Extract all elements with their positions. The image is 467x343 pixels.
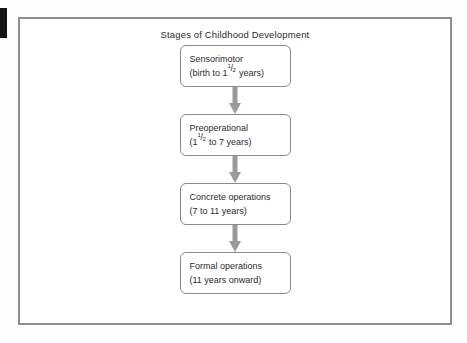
stage-age-range-suffix: years): [237, 68, 265, 78]
arrow-concrete-to-formal-operations: [228, 225, 242, 252]
stage-age-range: (7 to 11 years): [190, 204, 290, 218]
fraction-one-half: 1/2: [228, 67, 237, 76]
page-edge-mark: [0, 8, 7, 38]
arrow-head-down-icon: [229, 172, 241, 183]
figure-title: Stages of Childhood Development: [20, 29, 450, 40]
arrow-sensorimotor-to-preoperational: [228, 87, 242, 114]
arrow-head-down-icon: [229, 103, 241, 114]
stage-age-range: (birth to 11/2 years): [190, 66, 290, 80]
arrow-shaft: [233, 87, 238, 104]
arrow-shaft: [233, 225, 238, 242]
fraction-denominator: 2: [233, 67, 236, 73]
stage-age-range-prefix: (birth to 1: [190, 68, 228, 78]
figure-frame: Stages of Childhood Development Sensorim…: [18, 17, 452, 325]
stage-age-range-suffix: to 7 years): [207, 137, 252, 147]
fraction-denominator: 2: [203, 136, 206, 142]
stage-age-range-prefix: (1: [190, 137, 198, 147]
stage-title: Formal operations: [190, 259, 290, 273]
stage-box-preoperational: Preoperational (11/2 to 7 years): [180, 114, 291, 156]
stage-age-range: (11/2 to 7 years): [190, 135, 290, 149]
stage-box-formal-operations: Formal operations (11 years onward): [180, 252, 291, 294]
stage-title: Sensorimotor: [190, 52, 290, 66]
stage-age-range: (11 years onward): [190, 273, 290, 287]
fraction-one-half: 1/2: [198, 136, 207, 145]
arrow-shaft: [233, 156, 238, 173]
arrow-preoperational-to-concrete-operations: [228, 156, 242, 183]
stage-box-concrete-operations: Concrete operations (7 to 11 years): [180, 183, 291, 225]
stage-title: Concrete operations: [190, 190, 290, 204]
flowchart: Sensorimotor (birth to 11/2 years) Preop…: [20, 45, 450, 294]
stage-title: Preoperational: [190, 121, 290, 135]
arrow-head-down-icon: [229, 241, 241, 252]
stage-box-sensorimotor: Sensorimotor (birth to 11/2 years): [180, 45, 291, 87]
